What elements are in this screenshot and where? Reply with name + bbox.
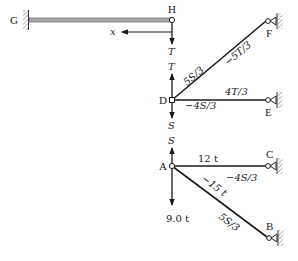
support-e: E bbox=[265, 92, 283, 118]
member-de-label-t: 4T/3 bbox=[224, 86, 248, 97]
pin-a bbox=[169, 163, 174, 168]
member-de-label-s: −4S/3 bbox=[185, 100, 216, 111]
pin-h bbox=[169, 17, 174, 22]
member-ac-label-t: 12 t bbox=[198, 153, 218, 164]
node-label-e: E bbox=[265, 106, 272, 118]
node-label-d: D bbox=[159, 94, 167, 106]
member-df bbox=[172, 21, 266, 100]
node-label-a: A bbox=[159, 160, 167, 172]
node-label-g: G bbox=[10, 14, 18, 26]
member-ac-label-s: −4S/3 bbox=[226, 172, 257, 183]
x-axis-label: x bbox=[110, 26, 116, 37]
support-c: C bbox=[266, 148, 283, 174]
support-b: B bbox=[266, 220, 284, 246]
member-df-label-s: 5S/3 bbox=[181, 64, 206, 87]
beam-body bbox=[29, 18, 170, 22]
force-s-at-d-label: S bbox=[168, 120, 175, 131]
force-s-at-a-label: S bbox=[168, 135, 175, 146]
node-label-h: H bbox=[168, 3, 176, 15]
load-at-a-label: 9.0 t bbox=[166, 213, 189, 224]
beam-gh: G H x T bbox=[10, 3, 176, 57]
force-t-at-d-label: T bbox=[168, 61, 176, 72]
member-ab-label-s: 5S/3 bbox=[217, 211, 242, 234]
joint-d: T S 5S/3 −5T/3 4T/3 −4S/3 D bbox=[159, 21, 266, 131]
node-label-c: C bbox=[266, 148, 273, 160]
node-label-b: B bbox=[266, 220, 273, 232]
node-label-f: F bbox=[266, 27, 272, 39]
joint-a: S 9.0 t 12 t −4S/3 −15 t 5S/3 A bbox=[159, 135, 267, 237]
pin-d bbox=[170, 98, 175, 103]
truss-free-body-diagram: G H x T T S 5S/3 −5T/3 4T/3 −4S/3 D F bbox=[0, 0, 298, 261]
support-f: F bbox=[266, 13, 283, 39]
force-t-at-h-label: T bbox=[168, 46, 176, 57]
wall-g-hatch bbox=[23, 10, 28, 30]
